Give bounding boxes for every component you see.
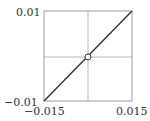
x-tick-left: −0.015 (24, 106, 65, 117)
origin-marker (85, 54, 91, 60)
x-tick-right: 0.015 (116, 106, 148, 117)
y-tick-top: 0.01 (16, 7, 41, 18)
